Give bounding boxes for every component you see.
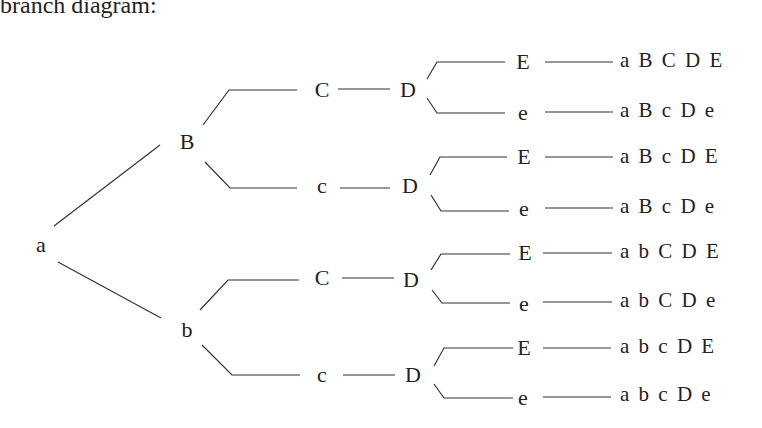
outcome-label: a b c D e: [620, 383, 712, 405]
node-root: a: [36, 234, 46, 256]
node-level4: E: [517, 337, 530, 359]
outcome-label: a B C D E: [620, 49, 723, 71]
node-level2: C: [315, 79, 330, 101]
node-level4: e: [518, 102, 528, 124]
outcome-label: a b C D E: [620, 240, 720, 262]
node-level4: e: [519, 293, 529, 315]
outcome-label: a B c D e: [620, 195, 715, 217]
node-level1: B: [180, 131, 195, 153]
node-level3: D: [405, 364, 421, 386]
node-level1: b: [182, 319, 193, 341]
node-level4: e: [519, 198, 529, 220]
outcome-label: a b C D e: [620, 289, 716, 311]
outcome-label: a B c D e: [620, 99, 715, 121]
node-level3: D: [403, 269, 419, 291]
node-level2: c: [317, 364, 327, 386]
node-level3: D: [402, 175, 418, 197]
node-level4: e: [518, 387, 528, 409]
node-level2: C: [315, 267, 330, 289]
outcome-label: a B c D E: [620, 145, 719, 167]
outcome-label: a b c D E: [620, 335, 715, 357]
node-level2: c: [317, 175, 327, 197]
node-level4: E: [516, 51, 529, 73]
node-level4: E: [518, 242, 531, 264]
node-level3: D: [400, 79, 416, 101]
node-level4: E: [517, 146, 530, 168]
